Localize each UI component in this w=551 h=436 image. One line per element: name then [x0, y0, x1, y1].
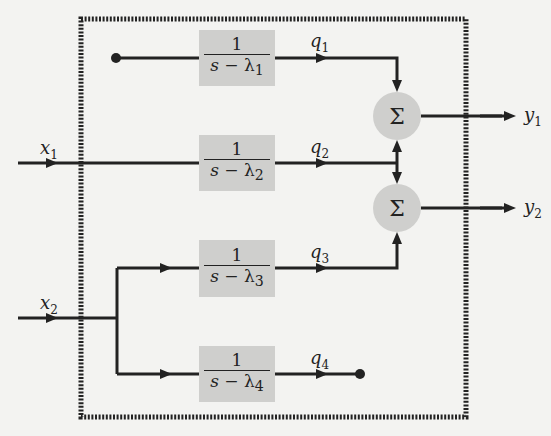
block-denominator: s − λ2	[210, 160, 264, 185]
summing-junction-1: Σ	[373, 92, 421, 140]
block-denominator: s − λ3	[210, 266, 264, 291]
sigma-icon: Σ	[389, 196, 405, 221]
wiring-layer	[0, 0, 551, 436]
state-label-q3: q3	[310, 241, 329, 266]
sigma-icon: Σ	[389, 104, 405, 129]
block-numerator: 1	[204, 35, 270, 55]
terminal-dot-q4	[355, 369, 365, 379]
terminal-dot-b1-input	[111, 53, 121, 63]
block-denominator: s − λ1	[210, 55, 264, 80]
output-label-y1: y1	[524, 104, 542, 129]
wire-q1-to-sum1	[316, 58, 397, 86]
block-mode-4: 1 s − λ4	[199, 346, 275, 402]
state-label-q4: q4	[310, 347, 329, 372]
block-numerator: 1	[204, 351, 270, 371]
state-label-q1: q1	[310, 30, 329, 55]
input-label-x2: x2	[40, 292, 58, 317]
input-label-x1: x1	[40, 137, 58, 162]
summing-junction-2: Σ	[373, 184, 421, 232]
state-label-q2: q2	[310, 136, 329, 161]
block-numerator: 1	[204, 246, 270, 266]
block-mode-1: 1 s − λ1	[199, 30, 275, 86]
output-label-y2: y2	[524, 196, 542, 221]
block-mode-3: 1 s − λ3	[199, 240, 275, 297]
block-denominator: s − λ4	[210, 371, 264, 396]
block-numerator: 1	[204, 140, 270, 160]
block-mode-2: 1 s − λ2	[199, 135, 275, 191]
